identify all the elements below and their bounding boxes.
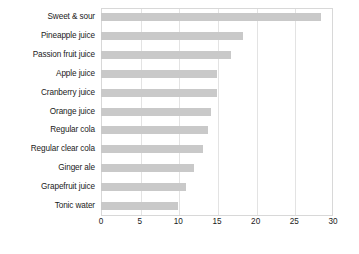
x-tick-label: 10 bbox=[174, 217, 183, 226]
category-label: Cranberry juice bbox=[41, 84, 95, 103]
bar-track bbox=[101, 159, 333, 178]
bar bbox=[101, 13, 321, 21]
category-label: Sweet & sour bbox=[48, 8, 96, 27]
category-label: Tonic water bbox=[55, 197, 95, 216]
bar bbox=[101, 145, 203, 153]
bar-track bbox=[101, 8, 333, 27]
chart-row: Apple juice bbox=[0, 65, 359, 84]
chart-row: Cranberry juice bbox=[0, 84, 359, 103]
category-label: Pineapple juice bbox=[41, 27, 95, 46]
bar-track bbox=[101, 65, 333, 84]
x-tick-label: 15 bbox=[212, 217, 221, 226]
category-label: Grapefruit juice bbox=[41, 178, 95, 197]
bar bbox=[101, 70, 217, 78]
chart-row: Grapefruit juice bbox=[0, 178, 359, 197]
bar bbox=[101, 108, 211, 116]
bar-track bbox=[101, 27, 333, 46]
x-tick-label: 20 bbox=[251, 217, 260, 226]
bar bbox=[101, 51, 231, 59]
bar-track bbox=[101, 46, 333, 65]
bar-track bbox=[101, 84, 333, 103]
category-label: Ginger ale bbox=[58, 159, 95, 178]
bar-track bbox=[101, 121, 333, 140]
chart-row: Tonic water bbox=[0, 197, 359, 216]
x-tick-label: 0 bbox=[99, 217, 104, 226]
bar-rows: Sweet & sourPineapple juicePassion fruit… bbox=[0, 8, 359, 216]
chart-row: Ginger ale bbox=[0, 159, 359, 178]
x-tick-label: 5 bbox=[137, 217, 142, 226]
category-label: Passion fruit juice bbox=[33, 46, 95, 65]
bar bbox=[101, 32, 243, 40]
category-label: Orange juice bbox=[50, 103, 95, 122]
bar-track bbox=[101, 178, 333, 197]
chart-figure: Sweet & sourPineapple juicePassion fruit… bbox=[0, 0, 359, 254]
chart-row: Sweet & sour bbox=[0, 8, 359, 27]
bar bbox=[101, 202, 178, 210]
chart-row: Orange juice bbox=[0, 103, 359, 122]
bar bbox=[101, 164, 194, 172]
x-tick-label: 30 bbox=[328, 217, 337, 226]
bar-track bbox=[101, 197, 333, 216]
x-tick-label: 25 bbox=[290, 217, 299, 226]
category-label: Regular clear cola bbox=[31, 140, 95, 159]
chart-row: Pineapple juice bbox=[0, 27, 359, 46]
bar bbox=[101, 89, 217, 97]
x-axis: 051015202530 bbox=[101, 217, 333, 233]
bar-track bbox=[101, 103, 333, 122]
chart-row: Regular cola bbox=[0, 121, 359, 140]
bar-track bbox=[101, 140, 333, 159]
chart-row: Passion fruit juice bbox=[0, 46, 359, 65]
category-label: Apple juice bbox=[56, 65, 95, 84]
chart-row: Regular clear cola bbox=[0, 140, 359, 159]
bar bbox=[101, 183, 186, 191]
category-label: Regular cola bbox=[50, 121, 95, 140]
bar bbox=[101, 126, 208, 134]
